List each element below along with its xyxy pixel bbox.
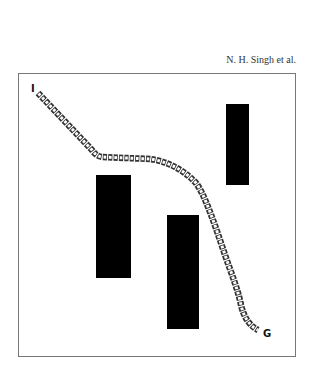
goal-label: G xyxy=(263,328,271,339)
path-planning-figure: I G xyxy=(0,0,312,373)
start-label: I xyxy=(31,83,35,94)
obstacle-1 xyxy=(96,175,131,278)
obstacle-3 xyxy=(226,104,249,185)
workspace-frame xyxy=(19,74,296,357)
obstacle-2 xyxy=(167,215,199,329)
